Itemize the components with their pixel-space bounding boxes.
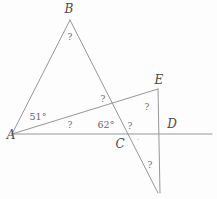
angle-at-A-lower: ?	[68, 121, 73, 130]
segments-group	[12, 20, 212, 193]
angle-at-B-apex: ?	[68, 33, 73, 42]
angle-at-bottom-vertex: ?	[148, 161, 153, 170]
angle-at-C-left: 62°	[98, 120, 115, 130]
angle-at-intersection-upper: ?	[101, 95, 106, 104]
geometry-diagram: ABCDE51°?62°?????·	[0, 0, 217, 199]
vertex-label-B: B	[65, 3, 74, 15]
angle-at-A-upper: 51°	[30, 112, 47, 122]
vertex-label-A: A	[7, 129, 16, 141]
vertex-label-E: E	[155, 74, 164, 86]
vertex-label-D: D	[167, 118, 177, 130]
angle-at-E-interior: ?	[145, 103, 150, 112]
segment-E-vertical	[158, 89, 160, 193]
angle-at-C-right: ?	[128, 122, 133, 131]
stray-degree-mark: ·	[137, 136, 140, 144]
geometry-canvas	[0, 0, 217, 199]
vertex-label-C: C	[115, 138, 124, 150]
